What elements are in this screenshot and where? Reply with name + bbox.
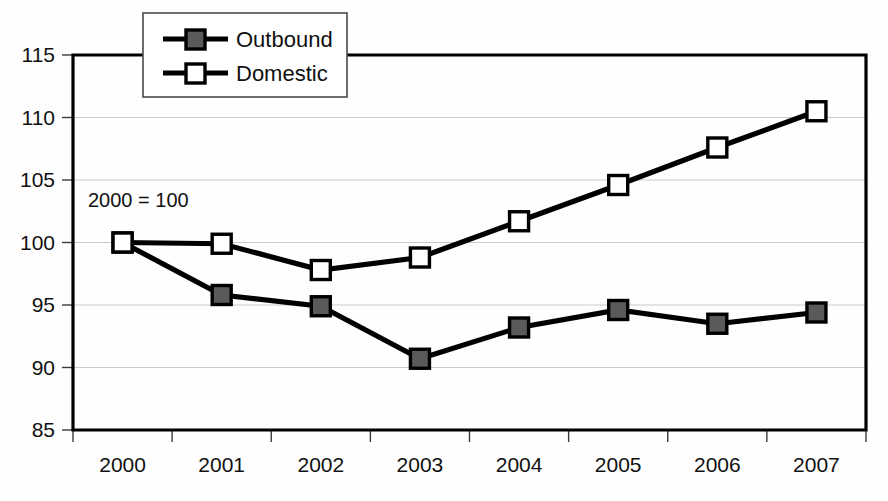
data-point-outbound-2006 [708,314,727,333]
data-point-domestic-2003 [410,248,429,267]
chart-legend: Outbound Domestic [143,13,347,97]
chart-container: 859095100105110115 200020012002200320042… [0,0,888,501]
data-point-outbound-2002 [311,297,330,316]
y-axis-tick-label: 95 [32,293,55,316]
x-axis-tick-label: 2007 [793,453,840,476]
data-point-outbound-2007 [807,303,826,322]
y-axis-tick-label: 100 [20,231,55,254]
baseline-annotation: 2000 = 100 [88,189,189,211]
series-group [113,102,826,369]
x-axis-tick-label: 2002 [297,453,344,476]
y-axis-tick-label: 90 [32,356,55,379]
data-point-outbound-2003 [410,349,429,368]
x-axis-ticks-group [73,430,866,442]
legend-label-outbound: Outbound [236,27,333,52]
legend-label-domestic: Domestic [236,61,328,86]
x-axis-tick-label: 2004 [496,453,543,476]
x-axis-labels-group: 20002001200220032004200520062007 [99,453,840,476]
data-point-domestic-2007 [807,102,826,121]
data-point-domestic-2004 [510,212,529,231]
y-axis-ticks-group [62,55,73,430]
data-point-outbound-2005 [609,301,628,320]
data-point-domestic-2002 [311,261,330,280]
y-axis-tick-label: 85 [32,418,55,441]
data-point-outbound-2004 [510,318,529,337]
data-point-outbound-2001 [212,286,231,305]
x-axis-tick-label: 2000 [99,453,146,476]
y-axis-tick-label: 115 [22,43,55,66]
legend-marker-domestic [186,64,205,83]
legend-marker-outbound [186,30,205,49]
y-axis-labels-group: 859095100105110115 [20,43,55,441]
data-point-domestic-2005 [609,176,628,195]
data-point-domestic-2001 [212,234,231,253]
data-point-domestic-2000 [113,233,132,252]
y-axis-tick-label: 110 [22,106,55,129]
x-axis-tick-label: 2003 [397,453,444,476]
y-axis-tick-label: 105 [20,168,55,191]
x-axis-tick-label: 2006 [694,453,741,476]
x-axis-tick-label: 2005 [595,453,642,476]
line-chart: 859095100105110115 200020012002200320042… [0,0,888,501]
x-axis-tick-label: 2001 [198,453,245,476]
data-point-domestic-2006 [708,138,727,157]
